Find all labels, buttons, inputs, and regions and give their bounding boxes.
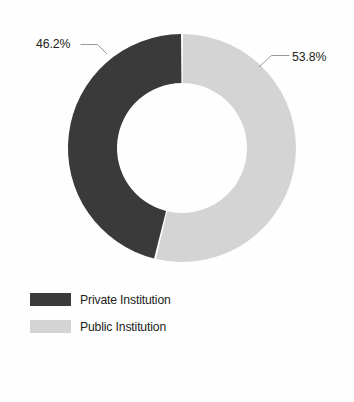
legend-label-private-institution: Private Institution bbox=[80, 293, 171, 307]
legend-swatch-private-institution bbox=[30, 293, 71, 306]
legend-item[interactable]: Public Institution bbox=[30, 320, 166, 334]
data-label-public-institution: 53.8% bbox=[292, 50, 327, 64]
legend-label-public-institution: Public Institution bbox=[80, 320, 166, 334]
donut-chart: 46.2% 53.8% Private Institution Public I… bbox=[0, 0, 354, 402]
data-label-private-institution: 46.2% bbox=[36, 37, 71, 51]
donut-chart-canvas: 46.2% 53.8% Private Institution Public I… bbox=[0, 0, 354, 402]
legend-item[interactable]: Private Institution bbox=[30, 293, 171, 307]
legend-swatch-public-institution bbox=[30, 320, 71, 333]
